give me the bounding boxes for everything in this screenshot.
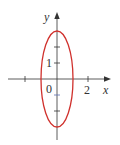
y-axis-label: y xyxy=(43,10,50,24)
y-tick-label-1: 1 xyxy=(46,56,52,70)
ellipse-plot: y x 1 0 2 xyxy=(0,0,120,145)
origin-label: 0 xyxy=(46,82,52,96)
x-axis-arrow-icon xyxy=(104,76,111,81)
x-tick-label-2: 2 xyxy=(84,83,90,97)
y-axis-arrow-icon xyxy=(54,12,59,19)
x-axis-label: x xyxy=(102,83,109,97)
